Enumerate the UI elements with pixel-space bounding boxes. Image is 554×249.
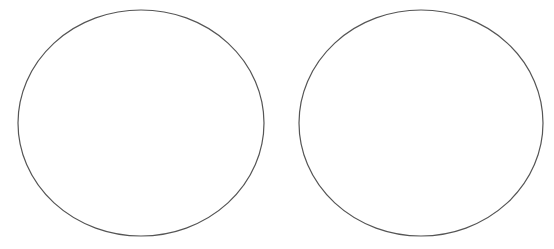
left-ellipse (18, 10, 264, 236)
diagram-canvas (0, 0, 554, 249)
right-ellipse (299, 10, 543, 236)
